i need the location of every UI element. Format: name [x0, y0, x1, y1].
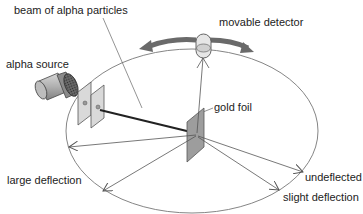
collimator-slits — [78, 82, 104, 128]
scattered-paths — [69, 58, 303, 191]
alpha-beam — [100, 110, 195, 133]
label-undeflected: undeflected — [305, 171, 362, 183]
label-leaders — [103, 18, 213, 112]
label-large-deflection: large deflection — [7, 174, 82, 186]
movable-detector-icon — [196, 34, 211, 68]
label-movable-detector: movable detector — [219, 16, 303, 28]
alpha-source-icon — [33, 72, 81, 101]
label-beam: beam of alpha particles — [14, 4, 128, 16]
label-slight-deflection: slight deflection — [283, 191, 359, 203]
label-gold-foil: gold foil — [214, 101, 252, 113]
rutherford-diagram: beam of alpha particles movable detector… — [0, 0, 363, 214]
label-alpha-source: alpha source — [6, 58, 69, 70]
